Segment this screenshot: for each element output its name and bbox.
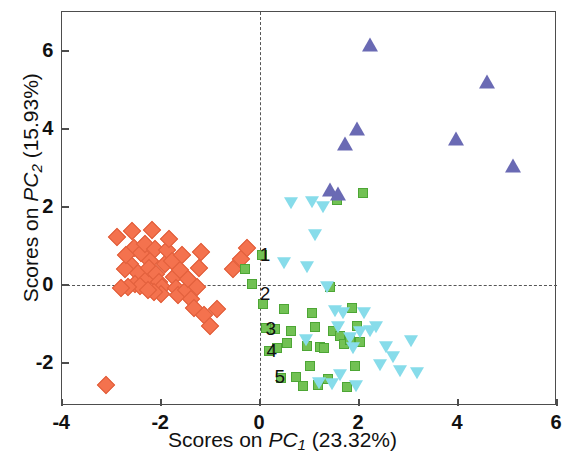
annotation-label: 4	[267, 340, 278, 362]
scatter-plot-figure: Scores on PC2 (15.93%) Scores on PC1 (23…	[0, 0, 565, 467]
data-point-triangle-up	[479, 75, 495, 89]
data-point-triangle-up	[330, 186, 346, 200]
data-point-square	[247, 279, 257, 289]
data-point-triangle-down	[349, 380, 363, 392]
data-point-triangle-down	[393, 365, 407, 377]
data-point-triangle-down	[404, 336, 418, 348]
data-point-square	[279, 304, 289, 314]
annotation-label: 3	[266, 318, 277, 340]
data-point-triangle-down	[316, 201, 330, 213]
y-axis-tick-label: 4	[17, 117, 53, 140]
data-point-triangle-down	[357, 307, 371, 319]
data-point-triangle-down	[300, 262, 314, 274]
data-point-triangle-down	[386, 351, 400, 363]
data-point-triangle-down	[308, 230, 322, 242]
x-axis-title-suffix: (23.32%)	[306, 428, 397, 451]
data-point-triangle-down	[336, 307, 350, 319]
x-axis-tick-label: 2	[353, 411, 364, 434]
data-point-triangle-down	[346, 342, 360, 354]
x-axis-tick-label: 0	[254, 411, 265, 434]
data-points-layer	[62, 12, 555, 404]
data-point-triangle-down	[299, 334, 313, 346]
x-axis-title: Scores on PC1 (23.32%)	[0, 428, 565, 453]
y-axis-tick-label: 6	[17, 39, 53, 62]
annotation-label: 2	[260, 283, 271, 305]
y-axis-tick-label: 2	[17, 195, 53, 218]
data-point-diamond	[123, 222, 141, 240]
annotation-label: 1	[260, 244, 271, 266]
data-point-triangle-down	[277, 257, 291, 269]
data-point-triangle-down	[320, 281, 334, 293]
data-point-square	[298, 381, 308, 391]
y-axis-tick-label: -2	[17, 351, 53, 374]
y-axis-tick-label: 0	[17, 273, 53, 296]
data-point-square	[286, 326, 296, 336]
data-point-square	[307, 308, 317, 318]
data-point-triangle-down	[284, 198, 298, 210]
data-point-square	[358, 188, 368, 198]
data-point-square	[319, 343, 329, 353]
data-point-triangle-up	[505, 159, 521, 173]
data-point-triangle-down	[312, 377, 326, 389]
x-axis-title-subscript: 1	[298, 436, 306, 453]
x-axis-tick-label: -2	[151, 411, 168, 434]
data-point-square	[305, 361, 315, 371]
data-point-square	[310, 322, 320, 332]
x-axis-tick-label: -4	[52, 411, 69, 434]
data-point-diamond	[191, 243, 209, 261]
y-axis-title-subscript: 2	[28, 164, 45, 172]
data-point-triangle-up	[362, 38, 378, 52]
data-point-triangle-up	[349, 121, 365, 135]
data-point-triangle-up	[337, 137, 353, 151]
data-point-triangle-down	[369, 321, 383, 333]
data-point-square	[282, 338, 292, 348]
data-point-square	[240, 264, 250, 274]
x-axis-tick-label: 6	[551, 411, 562, 434]
data-point-triangle-up	[448, 132, 464, 146]
data-point-diamond	[96, 375, 114, 393]
x-axis-tick	[556, 399, 558, 406]
plot-area: 12345	[61, 11, 556, 405]
x-axis-title-pc: PC	[268, 428, 297, 451]
y-axis-title: Scores on PC2 (15.93%)	[19, 8, 44, 368]
data-point-triangle-down	[410, 367, 424, 379]
data-point-triangle-down	[373, 359, 387, 371]
data-point-square	[350, 361, 360, 371]
data-point-triangle-down	[333, 369, 347, 381]
annotation-label: 5	[275, 366, 286, 388]
x-axis-tick-label: 4	[452, 411, 463, 434]
